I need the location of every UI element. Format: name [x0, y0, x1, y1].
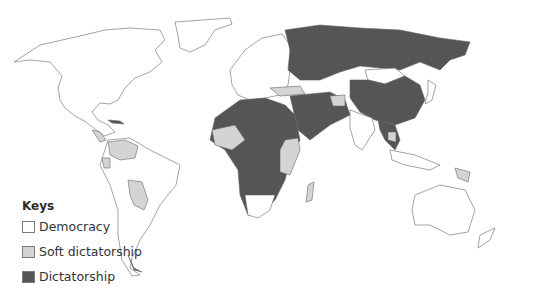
map-legend: Keys Democracy Soft dictatorship Dictato…	[22, 199, 142, 294]
australia	[412, 185, 475, 235]
greenland	[175, 18, 232, 52]
legend-title: Keys	[22, 199, 142, 213]
indonesia	[390, 150, 440, 170]
democracy-swatch	[22, 221, 35, 233]
papua-new-guinea	[455, 168, 470, 182]
dictatorship-swatch	[22, 271, 35, 283]
legend-item-soft-dictatorship: Soft dictatorship	[22, 244, 142, 259]
north-america	[14, 28, 165, 136]
cuba	[108, 120, 124, 124]
legend-item-dictatorship: Dictatorship	[22, 269, 142, 284]
legend-label: Soft dictatorship	[39, 244, 142, 259]
japan	[425, 80, 436, 104]
legend-label: Dictatorship	[39, 269, 115, 284]
soft-dictatorship-swatch	[22, 246, 35, 258]
southern-africa	[245, 195, 275, 218]
legend-item-democracy: Democracy	[22, 219, 142, 234]
east-africa-soft	[280, 138, 300, 175]
legend-label: Democracy	[39, 219, 110, 234]
new-zealand	[478, 228, 495, 248]
afghanistan	[330, 95, 345, 106]
madagascar	[306, 182, 314, 202]
cambodia	[388, 132, 396, 142]
